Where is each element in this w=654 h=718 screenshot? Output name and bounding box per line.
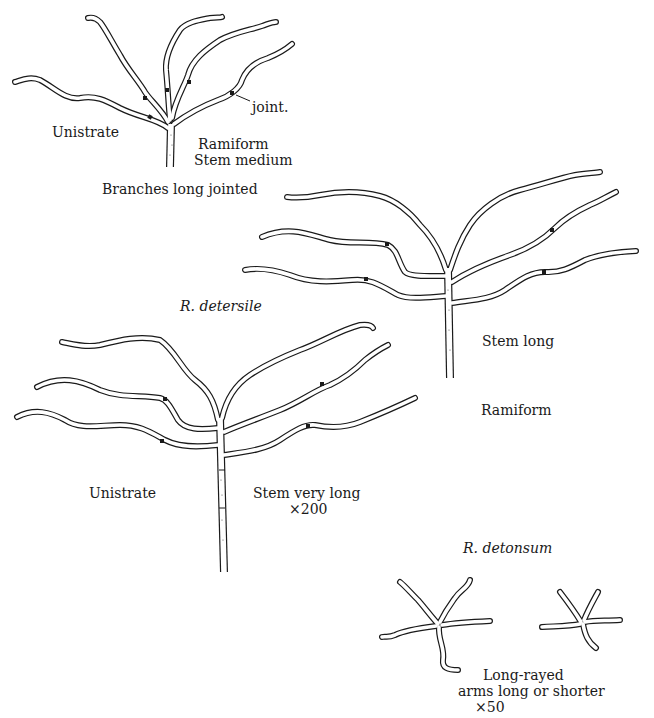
ramiform-label-top: Ramiform (198, 136, 269, 153)
left-middle-plant-drawing (17, 325, 415, 572)
star-large-drawing (382, 580, 490, 670)
ramiform-label-right: Ramiform (481, 402, 552, 419)
species-r-detersile: R. detersile (180, 298, 262, 315)
unistrate-label-middle: Unistrate (89, 485, 156, 502)
illustration-drawings (0, 0, 654, 718)
caption-branches-long-jointed: Branches long jointed (102, 181, 258, 198)
stem-medium-label: Stem medium (194, 152, 293, 169)
stem-long-label: Stem long (482, 333, 554, 350)
long-rayed-label: Long-rayed (483, 667, 564, 684)
species-r-detonsum: R. detonsum (463, 540, 552, 557)
stem-very-long-label: Stem very long (253, 485, 360, 502)
arms-long-or-shorter-label: arms long or shorter (458, 683, 605, 700)
joint-label: joint. (252, 99, 288, 116)
star-small-drawing (542, 592, 620, 648)
botanical-figure: joint. Unistrate Ramiform Stem medium Br… (0, 0, 654, 718)
magnification-x50: ×50 (475, 699, 505, 716)
magnification-x200: ×200 (289, 501, 327, 518)
unistrate-label-top: Unistrate (52, 124, 119, 141)
